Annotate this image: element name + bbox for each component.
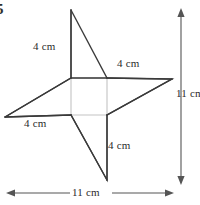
inner-square-guide [71,78,107,115]
dim-vertical-arrowhead-top [177,8,184,17]
edge-top-right [71,10,107,78]
dim-horizontal-arrowhead-left [6,189,15,196]
label-dimension-horizontal: 11 cm [72,186,100,198]
figure-drawing [0,0,200,205]
label-dimension-vertical: 11 cm [176,87,200,99]
dim-vertical-arrowhead-bottom [177,176,184,185]
star-outline [5,10,172,180]
edge-right-bottom [107,79,172,115]
label-side-right: 4 cm [117,57,140,69]
label-side-top-left: 4 cm [33,40,56,52]
star-geometry-figure: 5 4 cm 4 cm [0,0,200,205]
edge-right-top [107,78,172,79]
edge-left-top [5,78,71,117]
label-side-bottom-left: 4 cm [24,117,47,129]
edge-bottom-left [71,115,107,180]
star-edges [5,10,172,180]
label-side-bottom: 4 cm [108,139,131,151]
dim-horizontal-arrowhead-right [165,189,174,196]
